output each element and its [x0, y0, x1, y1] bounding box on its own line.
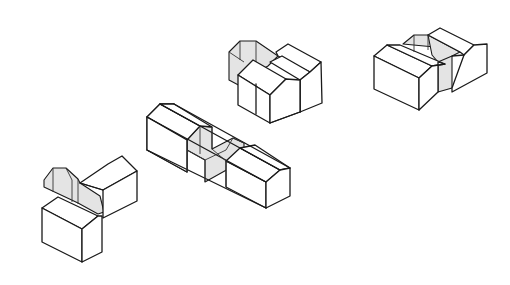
- corner-assembly: [42, 156, 137, 262]
- block-assemblies-diagram: [0, 0, 510, 285]
- twin-assembly: [374, 28, 487, 110]
- parallel-assembly: [229, 41, 322, 123]
